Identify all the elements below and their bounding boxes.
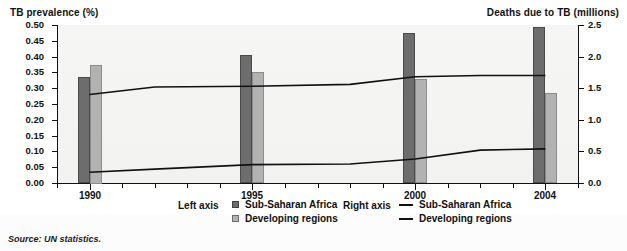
legend-item-right-sub-saharan-africa[interactable]: Sub-Saharan Africa bbox=[399, 199, 511, 210]
right-axis-tick-label: 1.0 bbox=[588, 114, 622, 125]
left-axis-tick-label: 0.30 bbox=[10, 82, 44, 93]
x-axis-minor-tick bbox=[448, 184, 449, 188]
right-axis-title: Deaths due to TB (millions) bbox=[487, 7, 619, 18]
legend-swatch-line-icon bbox=[399, 218, 413, 220]
legend-swatch-square-light-icon bbox=[232, 215, 239, 222]
left-axis-tick-label: 0.50 bbox=[10, 19, 44, 30]
legend-item-label: Developing regions bbox=[419, 213, 512, 224]
x-axis-minor-tick bbox=[350, 184, 351, 188]
x-axis-minor-tick bbox=[57, 184, 58, 188]
x-axis-minor-tick bbox=[285, 184, 286, 188]
x-axis-minor-tick bbox=[578, 184, 579, 188]
chart-legend: Left axis Sub-Saharan Africa Developing … bbox=[0, 196, 627, 230]
x-axis-minor-tick bbox=[187, 184, 188, 188]
x-axis-minor-tick bbox=[513, 184, 514, 188]
legend-swatch-square-dark-icon bbox=[232, 201, 239, 208]
x-axis-minor-tick bbox=[220, 184, 221, 188]
right-axis-tick-label: 2.0 bbox=[588, 51, 622, 62]
left-axis-tick-label: 0.40 bbox=[10, 51, 44, 62]
left-axis-tick-label: 0.15 bbox=[10, 130, 44, 141]
x-axis-minor-tick bbox=[480, 184, 481, 188]
left-axis-tick-label: 0.00 bbox=[10, 177, 44, 188]
left-axis-tick-label: 0.10 bbox=[10, 145, 44, 156]
x-axis-minor-tick bbox=[383, 184, 384, 188]
right-axis-tick-label: 1.5 bbox=[588, 82, 622, 93]
left-axis-tick-label: 0.20 bbox=[10, 114, 44, 125]
line-developing-regions bbox=[90, 149, 546, 172]
left-axis-tick-label: 0.35 bbox=[10, 66, 44, 77]
right-axis-tick-label: 0.0 bbox=[588, 177, 622, 188]
line-series-group bbox=[57, 25, 578, 183]
right-axis-tick-label: 0.5 bbox=[588, 145, 622, 156]
left-axis-title: TB prevalence (%) bbox=[10, 7, 98, 18]
right-axis-tick bbox=[579, 57, 584, 58]
legend-right-axis-label: Right axis bbox=[343, 200, 391, 211]
legend-item-left-sub-saharan-africa[interactable]: Sub-Saharan Africa bbox=[232, 199, 337, 210]
legend-item-right-developing-regions[interactable]: Developing regions bbox=[399, 213, 512, 224]
right-axis-tick-label: 2.5 bbox=[588, 19, 622, 30]
figure-chart-tb-prevalence: TB prevalence (%) Deaths due to TB (mill… bbox=[0, 0, 627, 251]
right-axis-tick bbox=[579, 25, 584, 26]
line-sub-saharan-africa bbox=[90, 76, 546, 95]
legend-item-label: Developing regions bbox=[245, 213, 338, 224]
right-axis-tick bbox=[579, 151, 584, 152]
left-axis-tick-label: 0.25 bbox=[10, 98, 44, 109]
legend-item-left-developing-regions[interactable]: Developing regions bbox=[232, 213, 338, 224]
source-note: Source: UN statistics. bbox=[8, 234, 101, 244]
legend-left-axis-label: Left axis bbox=[178, 200, 219, 211]
x-axis-minor-tick bbox=[122, 184, 123, 188]
x-axis-minor-tick bbox=[155, 184, 156, 188]
x-axis-minor-tick bbox=[318, 184, 319, 188]
legend-swatch-line-icon bbox=[399, 204, 413, 206]
legend-item-label: Sub-Saharan Africa bbox=[245, 199, 337, 210]
right-axis-line bbox=[578, 25, 579, 184]
right-axis-tick bbox=[579, 120, 584, 121]
right-axis-tick bbox=[579, 183, 584, 184]
left-axis-tick-label: 0.05 bbox=[10, 161, 44, 172]
legend-item-label: Sub-Saharan Africa bbox=[419, 199, 511, 210]
right-axis-tick bbox=[579, 88, 584, 89]
left-axis-tick-label: 0.45 bbox=[10, 35, 44, 46]
